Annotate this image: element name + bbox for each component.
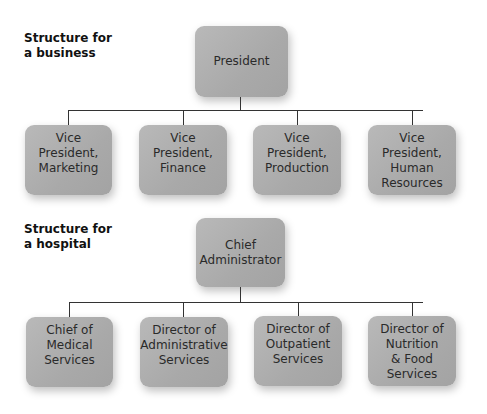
vp-marketing-box: Vice President, Marketing [25,125,112,195]
president-box: President [195,26,288,97]
vp-marketing-label: Vice President, Marketing [39,131,99,176]
chief-medical-services-box: Chief of Medical Services [26,317,113,387]
hospital-branch-line-1 [69,302,70,317]
hospital-trunk-line [240,287,241,302]
business-horizontal-connector [68,110,423,111]
director-outpatient-services-label: Director of Outpatient Services [266,322,330,367]
vp-finance-label: Vice President, Finance [153,131,213,176]
vp-finance-box: Vice President, Finance [139,125,227,195]
business-branch-line-3 [297,110,298,125]
vp-human-resources-box: Vice President, Human Resources [368,125,456,195]
chief-administrator-label: Chief Administrator [200,238,282,268]
hospital-section-title: Structure for a hospital [24,222,112,252]
chief-administrator-box: Chief Administrator [196,218,285,287]
hospital-horizontal-connector [69,302,423,303]
business-branch-line-4 [412,110,413,125]
director-administrative-services-box: Director of Administrative Services [140,317,228,387]
director-administrative-services-label: Director of Administrative Services [140,323,227,368]
hospital-branch-line-2 [183,302,184,317]
business-trunk-line [240,97,241,110]
vp-production-label: Vice President, Production [265,131,329,176]
hospital-branch-line-4 [412,302,413,317]
hospital-branch-line-3 [298,302,299,317]
vp-production-box: Vice President, Production [253,125,341,195]
business-section-title: Structure for a business [24,31,112,61]
president-label: President [214,54,270,69]
vp-human-resources-label: Vice President, Human Resources [381,131,442,191]
business-branch-line-2 [183,110,184,125]
director-nutrition-food-services-box: Director of Nutrition & Food Services [368,316,456,386]
business-branch-line-1 [68,110,69,125]
chief-medical-services-label: Chief of Medical Services [44,323,95,368]
director-nutrition-food-services-label: Director of Nutrition & Food Services [380,322,444,382]
director-outpatient-services-box: Director of Outpatient Services [254,316,342,386]
